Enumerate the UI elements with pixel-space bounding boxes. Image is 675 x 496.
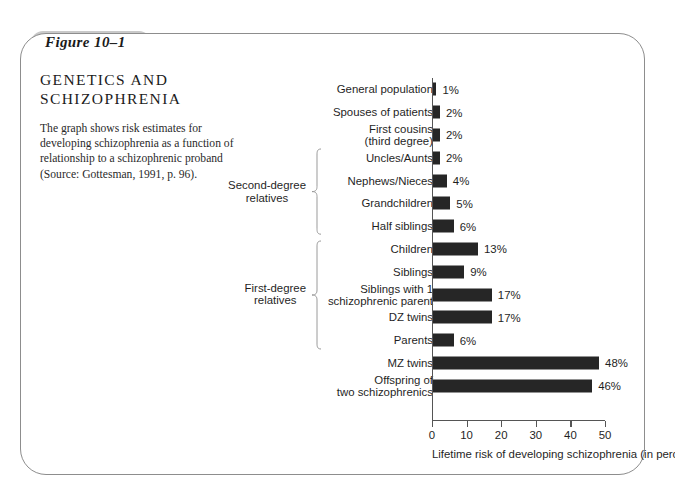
bar-value-label: 17% [498, 289, 521, 301]
bar-category-label: Children [391, 243, 433, 255]
bar-category-label: MZ twins [387, 357, 433, 369]
bar [433, 356, 599, 369]
bar-wrap: 1% [433, 83, 459, 96]
bar-value-label: 17% [498, 311, 521, 323]
bar-category-label: Grandchildren [361, 197, 433, 209]
bar-chart: General population1%Spouses of patients2… [236, 70, 634, 465]
bar-value-label: 5% [456, 197, 472, 209]
bar-category-label: Offspring oftwo schizophrenics [337, 373, 433, 398]
bar-row: General population1% [236, 78, 634, 101]
bar [433, 288, 492, 301]
bar-row: MZ twins48% [236, 352, 634, 375]
bar [433, 151, 440, 164]
bar-category-label: Nephews/Nieces [348, 174, 433, 186]
relative-group: Second-degreerelatives [236, 148, 322, 235]
bar-wrap: 4% [433, 174, 469, 187]
bar-category-label: General population [337, 83, 433, 95]
bar-wrap: 13% [433, 242, 507, 255]
bar [433, 379, 592, 392]
bar [433, 220, 454, 233]
bar [433, 197, 450, 210]
bar-category-label: Parents [394, 334, 433, 346]
relative-group-label: Second-degreerelatives [228, 179, 306, 204]
x-axis-tick [467, 421, 468, 427]
relative-group: First-degreerelatives [236, 240, 322, 350]
bar-value-label: 1% [442, 83, 458, 95]
x-axis-tick-label: 10 [460, 429, 473, 441]
bar-value-label: 2% [446, 152, 462, 164]
x-axis-tick-label: 40 [564, 429, 577, 441]
x-axis-tick-label: 0 [429, 429, 435, 441]
bar-value-label: 9% [470, 266, 486, 278]
bar-wrap: 5% [433, 197, 473, 210]
curly-brace-icon [311, 148, 322, 235]
bar-value-label: 13% [484, 243, 507, 255]
bar-value-label: 4% [453, 175, 469, 187]
bar [433, 174, 447, 187]
relative-group-label: First-degreerelatives [245, 282, 306, 307]
bar-wrap: 17% [433, 311, 521, 324]
bar-row: First cousins(third degree)2% [236, 124, 634, 147]
bar-value-label: 6% [460, 334, 476, 346]
x-axis-tick [432, 421, 433, 427]
bar [433, 83, 436, 96]
x-axis-tick-label: 20 [495, 429, 508, 441]
bar [433, 311, 492, 324]
bar-category-label: DZ twins [389, 311, 433, 323]
x-axis-tick [605, 421, 606, 427]
figure-number-label: Figure 10–1 [45, 34, 126, 51]
x-axis-tick [501, 421, 502, 427]
bar-wrap: 46% [433, 379, 621, 392]
caption-block: GENETICS ANDSCHIZOPHRENIA The graph show… [40, 70, 236, 182]
bar-value-label: 2% [446, 106, 462, 118]
bar-category-label: Siblings [393, 266, 433, 278]
bar-wrap: 48% [433, 356, 628, 369]
bar [433, 128, 440, 141]
x-axis-line [432, 420, 605, 421]
bar [433, 334, 454, 347]
bar-value-label: 46% [598, 380, 621, 392]
bar-category-label: Siblings with 1schizophrenic parent [328, 282, 433, 307]
x-axis-tick [536, 421, 537, 427]
bar-category-label: Uncles/Aunts [366, 152, 433, 164]
bar-value-label: 6% [460, 220, 476, 232]
bar-category-label: Half siblings [372, 220, 433, 232]
curly-brace-icon [311, 240, 322, 350]
x-axis-tick [570, 421, 571, 427]
figure-title: GENETICS ANDSCHIZOPHRENIA [40, 70, 236, 108]
bar-category-label: First cousins(third degree) [365, 123, 433, 148]
bar-value-label: 48% [605, 357, 628, 369]
bar [433, 265, 464, 278]
y-axis-line [432, 78, 433, 421]
bar-wrap: 6% [433, 220, 476, 233]
bar-wrap: 6% [433, 334, 476, 347]
bar-wrap: 2% [433, 128, 462, 141]
bar-wrap: 2% [433, 106, 462, 119]
bar-value-label: 2% [446, 129, 462, 141]
bar-row: Offspring oftwo schizophrenics46% [236, 374, 634, 397]
x-axis-tick-label: 30 [529, 429, 542, 441]
bar [433, 106, 440, 119]
figure-caption: The graph shows risk estimates for devel… [40, 121, 236, 182]
bar [433, 242, 478, 255]
bar-wrap: 2% [433, 151, 462, 164]
x-axis-tick-label: 50 [599, 429, 612, 441]
bar-row: Spouses of patients2% [236, 101, 634, 124]
x-axis-title: Lifetime risk of developing schizophreni… [432, 448, 605, 460]
bar-wrap: 9% [433, 265, 487, 278]
bar-category-label: Spouses of patients [333, 106, 433, 118]
bar-wrap: 17% [433, 288, 521, 301]
